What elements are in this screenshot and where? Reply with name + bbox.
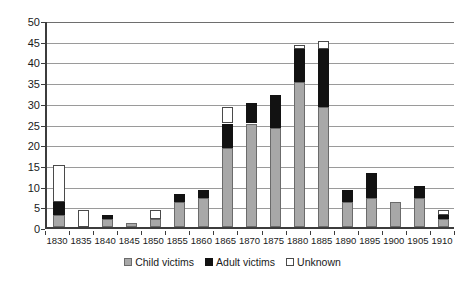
bar-segment-child[interactable] — [198, 198, 209, 227]
y-tick-mark — [41, 105, 45, 106]
bar-group[interactable] — [198, 20, 209, 227]
bar-segment-adult[interactable] — [222, 124, 233, 149]
x-tick-mark — [189, 231, 190, 235]
bar-segment-adult[interactable] — [294, 49, 305, 82]
bar-segment-child[interactable] — [294, 82, 305, 227]
bar-segment-adult[interactable] — [318, 49, 329, 107]
bar-group[interactable] — [390, 20, 401, 227]
y-tick-mark — [41, 229, 45, 230]
legend-item[interactable]: Unknown — [286, 256, 341, 268]
x-tick-label: 1895 — [359, 236, 380, 246]
y-tick-mark — [41, 167, 45, 168]
bar-segment-child[interactable] — [174, 202, 185, 227]
legend-label: Unknown — [297, 256, 341, 268]
x-tick-label: 1830 — [46, 236, 67, 246]
bar-group[interactable] — [438, 20, 449, 227]
bar-segment-adult[interactable] — [342, 190, 353, 202]
x-axis: 1830183518401845185018551860186518701875… — [45, 231, 454, 245]
bar-segment-adult[interactable] — [174, 194, 185, 202]
x-tick-mark — [406, 231, 407, 235]
legend-label: Child victims — [135, 256, 194, 268]
bar-segment-child[interactable] — [53, 215, 64, 227]
bar-segment-child[interactable] — [318, 107, 329, 227]
x-tick-mark — [358, 231, 359, 235]
bar-group[interactable] — [246, 20, 257, 227]
bar-segment-adult[interactable] — [53, 202, 64, 214]
y-tick-mark — [41, 126, 45, 127]
x-tick-mark — [334, 231, 335, 235]
y-tick-mark — [41, 84, 45, 85]
bar-group[interactable] — [174, 20, 185, 227]
bar-group[interactable] — [414, 20, 425, 227]
bar-group[interactable] — [222, 20, 233, 227]
y-tick-label: 20 — [0, 141, 40, 152]
legend-swatch-child-icon — [124, 258, 132, 266]
bar-segment-unknown[interactable] — [53, 165, 64, 202]
y-tick-label: 25 — [0, 120, 40, 131]
bar-group[interactable] — [294, 20, 305, 227]
x-tick-label: 1845 — [119, 236, 140, 246]
bar-segment-child[interactable] — [126, 223, 137, 227]
bar-segment-adult[interactable] — [198, 190, 209, 198]
bar-segment-unknown[interactable] — [222, 107, 233, 124]
bar-segment-child[interactable] — [414, 198, 425, 227]
y-tick-label: 40 — [0, 58, 40, 69]
x-tick-mark — [430, 231, 431, 235]
bar-segment-adult[interactable] — [438, 215, 449, 219]
bars-layer — [47, 22, 454, 227]
x-tick-label: 1885 — [311, 236, 332, 246]
x-tick-label: 1860 — [191, 236, 212, 246]
x-tick-mark — [45, 231, 46, 235]
x-tick-mark — [141, 231, 142, 235]
bar-segment-child[interactable] — [102, 219, 113, 227]
bar-segment-unknown[interactable] — [78, 210, 89, 227]
legend-swatch-adult-icon — [205, 258, 213, 266]
bar-group[interactable] — [53, 20, 64, 227]
x-tick-mark — [117, 231, 118, 235]
bar-segment-unknown[interactable] — [294, 45, 305, 49]
x-tick-label: 1865 — [215, 236, 236, 246]
x-tick-mark — [286, 231, 287, 235]
x-tick-label: 1835 — [71, 236, 92, 246]
bar-group[interactable] — [270, 20, 281, 227]
legend-item[interactable]: Child victims — [124, 256, 194, 268]
bar-group[interactable] — [342, 20, 353, 227]
bar-segment-child[interactable] — [222, 148, 233, 227]
bar-segment-unknown[interactable] — [438, 210, 449, 214]
x-tick-mark — [262, 231, 263, 235]
bar-segment-adult[interactable] — [246, 103, 257, 124]
plot-wrapper — [45, 22, 454, 229]
x-tick-label: 1905 — [407, 236, 428, 246]
bar-segment-child[interactable] — [366, 198, 377, 227]
bar-segment-child[interactable] — [270, 128, 281, 227]
bar-segment-child[interactable] — [438, 219, 449, 227]
bar-segment-adult[interactable] — [414, 186, 425, 198]
bar-segment-child[interactable] — [342, 202, 353, 227]
legend-swatch-unknown-icon — [286, 258, 294, 266]
y-tick-label: 30 — [0, 99, 40, 110]
bar-segment-adult[interactable] — [366, 173, 377, 198]
bar-segment-unknown[interactable] — [150, 210, 161, 218]
x-tick-mark — [93, 231, 94, 235]
x-tick-label: 1855 — [167, 236, 188, 246]
bar-segment-adult[interactable] — [270, 95, 281, 128]
y-tick-mark — [41, 208, 45, 209]
y-tick-mark — [41, 188, 45, 189]
bar-group[interactable] — [150, 20, 161, 227]
bar-group[interactable] — [126, 20, 137, 227]
x-tick-mark — [382, 231, 383, 235]
legend-item[interactable]: Adult victims — [205, 256, 275, 268]
chart-legend: Child victimsAdult victimsUnknown — [0, 256, 465, 268]
bar-segment-child[interactable] — [246, 124, 257, 228]
x-tick-label: 1840 — [95, 236, 116, 246]
bar-segment-child[interactable] — [150, 219, 161, 227]
bar-group[interactable] — [318, 20, 329, 227]
bar-group[interactable] — [78, 20, 89, 227]
legend-label: Adult victims — [216, 256, 275, 268]
bar-segment-child[interactable] — [390, 202, 401, 227]
bar-segment-unknown[interactable] — [318, 41, 329, 49]
bar-segment-adult[interactable] — [102, 215, 113, 219]
bar-group[interactable] — [366, 20, 377, 227]
x-tick-label: 1900 — [383, 236, 404, 246]
bar-group[interactable] — [102, 20, 113, 227]
